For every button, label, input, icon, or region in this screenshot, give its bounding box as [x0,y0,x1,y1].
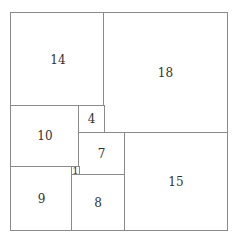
square-label: 8 [94,196,102,210]
square-8: 8 [71,174,125,231]
square-label: 4 [88,112,96,126]
square-4: 4 [78,105,105,133]
square-label: 10 [37,129,52,143]
squared-rectangle-diagram: 14 18 10 4 7 15 9 1 8 [0,0,233,243]
square-9: 9 [10,166,73,231]
square-label: 9 [38,192,46,206]
square-15: 15 [124,132,228,231]
square-label: 18 [158,66,173,80]
square-14: 14 [10,12,106,108]
square-label: 14 [50,53,65,67]
square-label: 15 [168,175,183,189]
square-label: 7 [98,147,106,161]
square-10: 10 [10,105,80,167]
square-18: 18 [103,12,228,133]
square-7: 7 [78,132,125,175]
